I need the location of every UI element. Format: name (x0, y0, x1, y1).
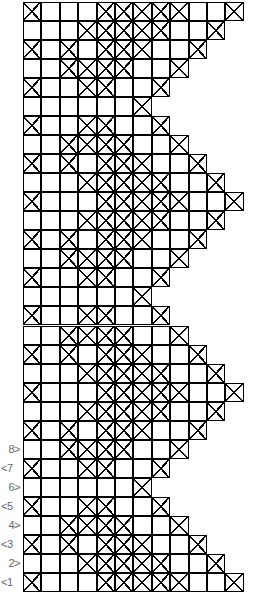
crossed-cell-icon (152, 173, 170, 192)
crossed-cell-icon (23, 268, 41, 287)
crossed-cell-icon (23, 421, 41, 440)
empty-cell (78, 40, 96, 59)
crossed-cell-icon (78, 364, 96, 383)
crossed-cell-icon (115, 230, 133, 249)
crossed-cell-icon (115, 59, 133, 78)
empty-cell (60, 78, 78, 97)
empty-cell (189, 554, 207, 573)
empty-cell (152, 154, 170, 173)
crossed-cell-icon (97, 116, 115, 135)
crossed-cell-icon (115, 383, 133, 402)
empty-cell (60, 402, 78, 421)
empty-cell (170, 535, 188, 554)
crossed-cell-icon (97, 192, 115, 211)
empty-cell (60, 287, 78, 306)
empty-cell (97, 287, 115, 306)
chart-row (23, 173, 225, 192)
empty-cell (170, 554, 188, 573)
empty-cell (60, 2, 78, 21)
crossed-cell-icon (225, 383, 243, 402)
empty-cell (41, 554, 59, 573)
crossed-cell-icon (207, 173, 225, 192)
empty-cell (41, 2, 59, 21)
row-number-label: <1 (0, 573, 21, 592)
empty-cell (78, 2, 96, 21)
crossed-cell-icon (170, 440, 188, 459)
empty-cell (41, 306, 59, 325)
empty-cell (23, 554, 41, 573)
empty-cell (78, 573, 96, 592)
crossed-cell-icon (78, 326, 96, 345)
empty-cell (133, 440, 151, 459)
crossed-cell-icon (152, 2, 170, 21)
empty-cell (170, 154, 188, 173)
crossed-cell-icon (97, 535, 115, 554)
empty-cell (152, 135, 170, 154)
crossed-cell-icon (97, 516, 115, 535)
crossed-cell-icon (133, 421, 151, 440)
empty-cell (189, 2, 207, 21)
crossed-cell-icon (133, 554, 151, 573)
crossed-cell-icon (115, 440, 133, 459)
chart-row (23, 21, 225, 40)
empty-cell (189, 21, 207, 40)
crossed-cell-icon (23, 116, 41, 135)
chart-row (23, 383, 244, 402)
crossed-cell-icon (97, 249, 115, 268)
crossed-cell-icon (23, 459, 41, 478)
empty-cell (41, 211, 59, 230)
empty-cell (41, 440, 59, 459)
crossed-cell-icon (115, 573, 133, 592)
crossed-cell-icon (207, 364, 225, 383)
empty-cell (78, 535, 96, 554)
crossed-cell-icon (133, 383, 151, 402)
empty-cell (41, 249, 59, 268)
chart-row (23, 535, 207, 554)
chart-row (23, 97, 152, 116)
chart-row (23, 135, 189, 154)
empty-cell (115, 78, 133, 97)
crossed-cell-icon (23, 2, 41, 21)
empty-cell (133, 116, 151, 135)
chart-row (23, 249, 189, 268)
crossed-cell-icon (152, 306, 170, 325)
empty-cell (133, 326, 151, 345)
chart-row (23, 326, 189, 345)
crossed-cell-icon (97, 306, 115, 325)
chart-row (23, 78, 170, 97)
crossed-cell-icon (133, 287, 151, 306)
crossed-cell-icon (23, 383, 41, 402)
crossed-cell-icon (207, 21, 225, 40)
crossed-cell-icon (97, 40, 115, 59)
crossed-cell-icon (225, 573, 243, 592)
crossed-cell-icon (170, 135, 188, 154)
empty-cell (41, 497, 59, 516)
chart-row (23, 497, 170, 516)
crossed-cell-icon (23, 306, 41, 325)
empty-cell (152, 59, 170, 78)
crossed-cell-icon (133, 97, 151, 116)
empty-cell (41, 326, 59, 345)
crossed-cell-icon (152, 573, 170, 592)
empty-cell (60, 192, 78, 211)
empty-cell (60, 268, 78, 287)
empty-cell (115, 478, 133, 497)
crossed-cell-icon (170, 2, 188, 21)
row-number-label: <5 (0, 497, 21, 516)
empty-cell (115, 268, 133, 287)
empty-cell (78, 97, 96, 116)
empty-cell (60, 21, 78, 40)
row-number-label: <7 (0, 459, 21, 478)
crossed-cell-icon (97, 402, 115, 421)
empty-cell (41, 478, 59, 497)
empty-cell (152, 440, 170, 459)
crossed-cell-icon (189, 535, 207, 554)
empty-cell (189, 573, 207, 592)
crossed-cell-icon (115, 135, 133, 154)
crossed-cell-icon (97, 326, 115, 345)
empty-cell (23, 249, 41, 268)
empty-cell (189, 173, 207, 192)
empty-cell (23, 326, 41, 345)
crossed-cell-icon (78, 554, 96, 573)
empty-cell (207, 192, 225, 211)
